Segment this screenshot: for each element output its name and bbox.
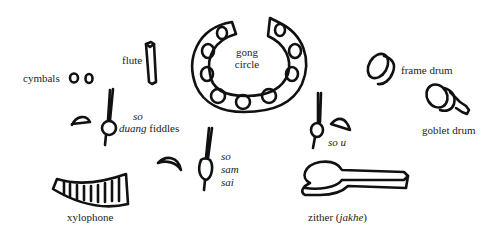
zither-icon (302, 162, 408, 195)
label-zither: zither (jakhe) (308, 211, 367, 223)
goblet-drum-icon (422, 81, 469, 114)
label-so-duang-so: so (133, 110, 179, 122)
label-goblet-drum: goblet drum (422, 124, 475, 136)
label-so-sam-sai-sam: sam (221, 163, 239, 176)
label-so-u: so u (328, 136, 346, 148)
label-so-duang: so duang fiddles (133, 110, 179, 134)
label-xylophone: xylophone (67, 211, 113, 223)
label-zither-main: zither ( (308, 211, 339, 223)
label-so-sam-sai-so: so (221, 150, 239, 163)
label-so-sam-sai-sai: sai (221, 176, 239, 189)
flute-icon (146, 42, 156, 84)
xylophone-icon (53, 174, 128, 206)
frame-drum-icon (364, 50, 394, 84)
label-flute: flute (122, 54, 142, 66)
label-so-duang-line2: duang fiddles (119, 122, 179, 134)
label-gong-line1: gong (232, 46, 262, 58)
label-cymbals: cymbals (23, 72, 60, 84)
label-gong-circle: gong circle (232, 46, 262, 70)
instrument-drawings (0, 0, 501, 232)
so-sam-sai-icon (158, 128, 212, 190)
label-zither-jakhe: jakhe (339, 211, 363, 223)
label-so-duang-fiddles: fiddles (149, 122, 179, 134)
label-so-sam-sai: so sam sai (221, 150, 239, 189)
label-zither-close: ) (363, 211, 367, 223)
label-frame-drum: frame drum (401, 64, 453, 76)
cymbals-icon (70, 74, 93, 84)
so-duang-fiddle-icon (72, 89, 116, 145)
label-so-duang-duang: duang (119, 122, 147, 134)
label-gong-line2: circle (232, 58, 262, 70)
